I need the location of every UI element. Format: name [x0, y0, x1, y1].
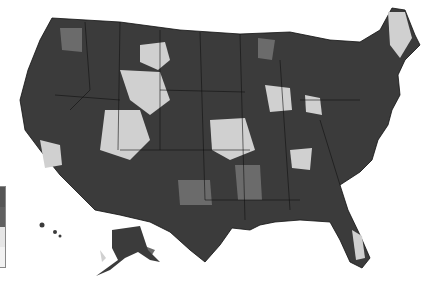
legend-swatch: [0, 227, 5, 247]
legend-swatch: [0, 187, 5, 207]
legend-swatch: [0, 207, 5, 227]
us-choropleth-map: [0, 0, 442, 293]
map-legend: [0, 186, 6, 268]
hawaii: [40, 223, 62, 238]
legend-swatch: [0, 247, 5, 267]
